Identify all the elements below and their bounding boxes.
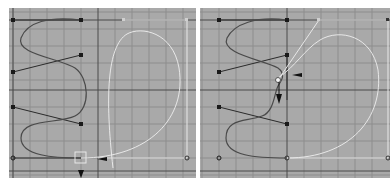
selected-curve-segment[interactable] xyxy=(278,35,379,158)
viewport-canvas[interactable] xyxy=(9,8,196,178)
control-points[interactable] xyxy=(11,18,189,160)
grid-major xyxy=(9,8,196,178)
viewport-canvas[interactable] xyxy=(200,8,390,178)
grid-minor xyxy=(9,8,196,178)
viewport-panel-before[interactable] xyxy=(9,8,196,178)
selected-cv[interactable] xyxy=(276,78,281,83)
hull-selected xyxy=(98,20,187,158)
s-curve[interactable] xyxy=(226,19,287,158)
grid-minor xyxy=(200,8,390,178)
move-arrow-down-icon[interactable] xyxy=(276,94,282,104)
move-arrow-right-icon[interactable] xyxy=(292,73,302,77)
viewport-panel-after[interactable] xyxy=(200,8,390,178)
move-arrow-down-icon[interactable] xyxy=(78,170,84,178)
selected-curve-segment[interactable] xyxy=(81,31,180,168)
grid-major xyxy=(200,8,390,178)
